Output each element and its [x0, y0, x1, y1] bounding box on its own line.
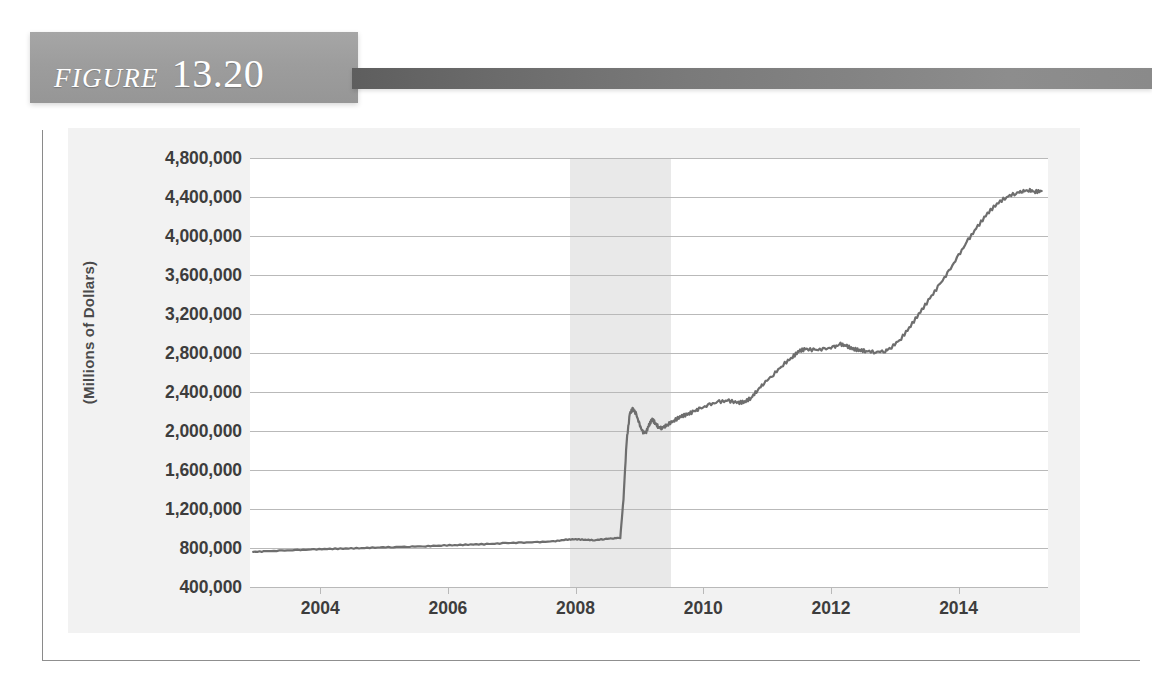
x-axis-tick: [576, 587, 577, 594]
x-axis-tick-label: 2004: [301, 598, 340, 619]
y-axis-tick-label: 2,400,000: [102, 382, 242, 403]
y-axis-tick-label: 2,800,000: [102, 343, 242, 364]
figure-header-text: FIGURE 13.20: [54, 50, 264, 97]
y-axis-tick-label: 4,400,000: [102, 187, 242, 208]
figure-header-banner: FIGURE 13.20: [30, 32, 358, 103]
series-line-total-assets: [253, 189, 1041, 552]
x-axis-tick-label: 2012: [811, 598, 850, 619]
y-axis-tick-label: 4,800,000: [102, 148, 242, 169]
figure-label: FIGURE: [54, 63, 159, 94]
chart-frame-bottom-rule: [42, 660, 1140, 661]
y-axis-tick-label: 800,000: [102, 538, 242, 559]
y-axis-tick-label: 1,600,000: [102, 460, 242, 481]
x-axis-tick: [831, 587, 832, 594]
x-axis-tick-label: 2010: [684, 598, 723, 619]
line-chart-svg: [250, 158, 1048, 587]
x-axis-tick-label: 2008: [556, 598, 595, 619]
y-axis-tick-label: 3,200,000: [102, 304, 242, 325]
y-axis-tick-label: 4,000,000: [102, 226, 242, 247]
x-axis-tick: [320, 587, 321, 594]
plot-area: [250, 158, 1048, 587]
y-axis-title: (Millions of Dollars): [80, 163, 97, 503]
x-axis-line: [250, 587, 1048, 588]
figure-number: 13.20: [172, 50, 265, 97]
header-gradient-rule: [352, 68, 1152, 89]
y-axis-tick-label: 1,200,000: [102, 499, 242, 520]
chart-panel: (Millions of Dollars) 4,800,0004,400,000…: [68, 128, 1080, 633]
y-axis-tick-label: 400,000: [102, 577, 242, 598]
chart-frame-left-rule: [42, 130, 43, 661]
x-axis-tick: [703, 587, 704, 594]
y-axis-tick-labels: 4,800,0004,400,0004,000,0003,600,0003,20…: [102, 128, 242, 633]
y-axis-tick-label: 2,000,000: [102, 421, 242, 442]
x-axis-tick-label: 2014: [939, 598, 978, 619]
x-axis-tick-label: 2006: [428, 598, 467, 619]
x-axis-tick: [448, 587, 449, 594]
x-axis-tick: [959, 587, 960, 594]
y-axis-tick-label: 3,600,000: [102, 265, 242, 286]
